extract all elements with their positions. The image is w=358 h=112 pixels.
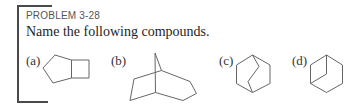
structures-canvas <box>0 0 358 112</box>
structure-a <box>43 55 89 83</box>
structure-d <box>311 55 343 93</box>
structure-b <box>130 53 197 101</box>
structure-c <box>237 55 271 93</box>
